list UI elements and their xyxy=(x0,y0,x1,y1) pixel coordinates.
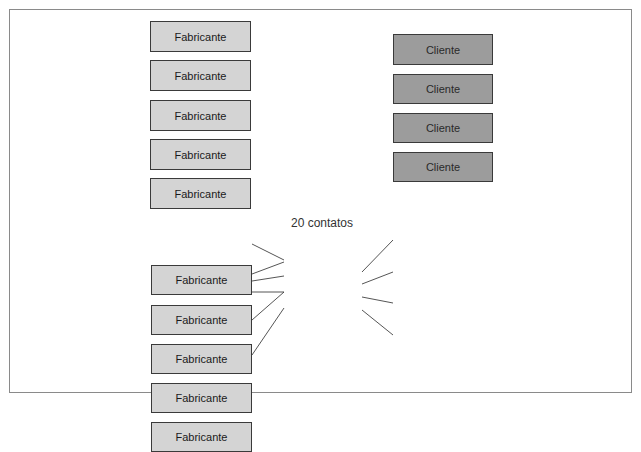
client-box: Cliente xyxy=(393,34,493,65)
manufacturer-box: Fabricante xyxy=(151,305,252,335)
manufacturer-box: Fabricante xyxy=(150,139,251,170)
manufacturer-box: Fabricante xyxy=(150,100,251,131)
manufacturer-box: Fabricante xyxy=(151,344,252,374)
manufacturer-box: Fabricante xyxy=(150,21,251,52)
manufacturer-box: Fabricante xyxy=(150,60,251,91)
manufacturer-box: Fabricante xyxy=(151,422,252,452)
client-box: Cliente xyxy=(393,113,493,143)
manufacturer-box: Fabricante xyxy=(151,265,252,295)
manufacturer-box: Fabricante xyxy=(151,383,252,413)
top-caption: 20 contatos xyxy=(222,216,422,230)
client-box: Cliente xyxy=(393,152,493,182)
manufacturer-box: Fabricante xyxy=(150,178,251,209)
client-box: Cliente xyxy=(393,74,493,104)
